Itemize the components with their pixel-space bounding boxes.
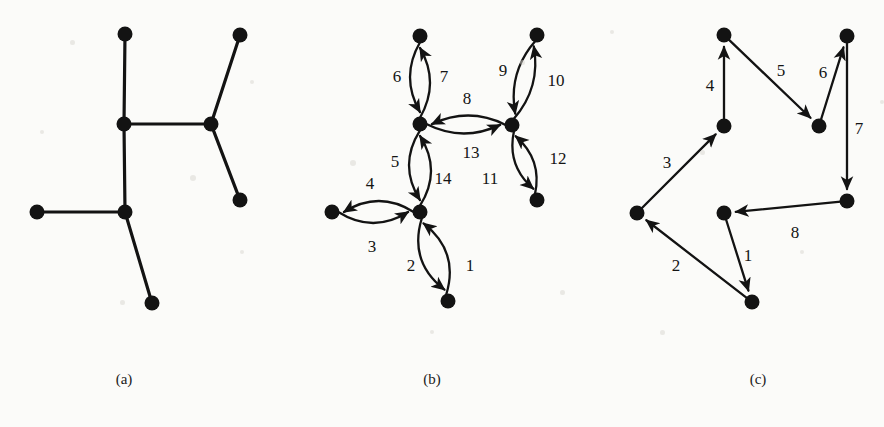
- paper-speck: [250, 80, 254, 84]
- edge-label: 2: [407, 257, 416, 274]
- edge-label: 6: [393, 68, 402, 85]
- edge-label: 7: [440, 68, 449, 85]
- graph-edge: [213, 130, 238, 194]
- graph-node: [630, 206, 645, 221]
- paper-speck: [520, 60, 525, 65]
- edge-label: 5: [777, 62, 786, 79]
- graph-edge: [338, 212, 408, 223]
- graph-edge: [420, 48, 430, 118]
- paper-speck: [70, 40, 75, 45]
- edge-label: 5: [391, 153, 400, 170]
- edge-label: 2: [672, 257, 681, 274]
- paper-speck: [800, 250, 804, 254]
- graph-edge: [127, 218, 150, 297]
- graph-node: [117, 117, 132, 132]
- caption-c: (c): [750, 371, 767, 388]
- paper-speck: [610, 30, 614, 34]
- edge-label: 10: [548, 72, 565, 89]
- graph-edge: [516, 136, 537, 194]
- edge-label: 14: [435, 170, 452, 187]
- edge-label: 12: [550, 150, 567, 167]
- edge-label: 1: [466, 257, 475, 274]
- edge-label: 11: [482, 170, 498, 187]
- graph-node: [233, 193, 248, 208]
- graph-node: [441, 294, 456, 309]
- graph-node: [325, 205, 340, 220]
- graph-edge: [409, 130, 420, 200]
- paper-speck: [880, 100, 884, 104]
- edge-label: 6: [819, 64, 828, 81]
- graph-node: [505, 118, 520, 133]
- graph-node: [717, 206, 732, 221]
- graph-node: [233, 28, 248, 43]
- graph-edge: [124, 130, 125, 205]
- graph-edge: [420, 136, 431, 206]
- edge-label: 8: [791, 224, 800, 241]
- graph-edge: [821, 47, 844, 120]
- graph-node: [812, 119, 827, 134]
- graph-node: [413, 117, 428, 132]
- figure-canvas: [0, 0, 884, 427]
- paper-speck: [240, 250, 244, 254]
- graph-edge: [344, 201, 414, 212]
- graph-edge: [729, 39, 811, 117]
- graph-edge: [410, 42, 420, 112]
- graph-node: [840, 29, 855, 44]
- caption-b: (b): [423, 371, 441, 388]
- graph-node: [204, 117, 219, 132]
- edge-label: 3: [368, 238, 377, 255]
- edge-label: 8: [463, 90, 472, 107]
- paper-speck: [700, 150, 705, 155]
- graph-node: [118, 27, 133, 42]
- paper-speck: [120, 300, 125, 305]
- graph-edge: [512, 131, 533, 189]
- edge-label: 4: [366, 175, 375, 192]
- graph-node: [745, 295, 760, 310]
- graph-edge: [432, 116, 506, 125]
- paper-speck: [660, 330, 665, 335]
- graph-node: [530, 193, 545, 208]
- paper-speck: [190, 175, 196, 181]
- graph-node: [413, 29, 428, 44]
- caption-a: (a): [116, 371, 133, 388]
- paper-speck: [560, 290, 565, 295]
- edge-label: 13: [463, 144, 480, 161]
- graph-edge: [641, 134, 715, 208]
- edge-label: 9: [499, 62, 508, 79]
- edge-label: 4: [706, 77, 715, 94]
- graph-node: [145, 296, 160, 311]
- edge-label: 3: [663, 154, 672, 171]
- paper-speck: [40, 130, 44, 134]
- graph-node: [413, 205, 428, 220]
- edge-label: 7: [855, 120, 864, 137]
- graph-node: [530, 28, 545, 43]
- graph-edge: [213, 41, 238, 118]
- paper-speck: [350, 160, 356, 166]
- graph-node: [118, 205, 133, 220]
- graph-node: [30, 205, 45, 220]
- graph-node: [717, 119, 732, 134]
- graph-node: [717, 28, 732, 43]
- graph-node: [840, 194, 855, 209]
- graph-edge: [736, 202, 841, 212]
- edge-label: 1: [744, 247, 753, 264]
- graph-edge: [124, 40, 125, 117]
- paper-speck: [430, 330, 434, 334]
- graph-edge: [646, 220, 747, 298]
- figure-graph-traversal-illustration: 123456789101112131412345678 (a)(b)(c): [0, 0, 884, 427]
- graph-edge: [426, 124, 500, 133]
